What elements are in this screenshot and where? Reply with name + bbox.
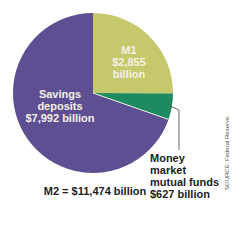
mmmf-line1: Money market bbox=[150, 152, 222, 176]
m1-label: M1 $2,855 billion bbox=[98, 44, 160, 80]
m1-value: $2,855 billion bbox=[98, 56, 160, 80]
savings-label: Savings deposits $7,992 billion bbox=[18, 88, 102, 124]
mmmf-label: Money market mutual funds $627 billion bbox=[150, 152, 222, 200]
mmmf-value: $627 billion bbox=[150, 188, 222, 200]
mmmf-line2: mutual funds bbox=[150, 176, 222, 188]
mmmf-leader-line bbox=[170, 106, 179, 150]
savings-line2: deposits bbox=[18, 100, 102, 112]
savings-value: $7,992 billion bbox=[18, 112, 102, 124]
m1-name: M1 bbox=[98, 44, 160, 56]
savings-line1: Savings bbox=[18, 88, 102, 100]
total-label: M2 = $11,474 billion bbox=[40, 185, 150, 197]
source-note: SOURCE: Federal Reserve. bbox=[224, 115, 230, 190]
